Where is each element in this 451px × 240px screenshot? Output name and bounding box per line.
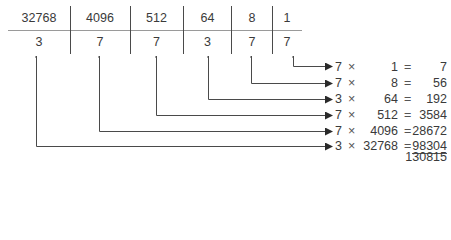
product-value: 7 <box>440 60 447 74</box>
product-value: 3584 <box>419 108 447 122</box>
place-value: 512 <box>377 108 398 122</box>
equals-sign: = <box>404 76 411 90</box>
times-sign: × <box>348 124 355 138</box>
product-row-4: 7 × 512 = 3584 <box>335 108 447 122</box>
equals-sign: = <box>404 92 411 106</box>
place-value: 1 <box>391 60 398 74</box>
times-sign: × <box>348 108 355 122</box>
times-sign: × <box>348 76 355 90</box>
sum-total: 130815 <box>405 150 447 164</box>
product-row-1: 7 × 1 = 7 <box>335 60 447 74</box>
place-value: 32768 <box>363 139 398 153</box>
times-sign: × <box>348 139 355 153</box>
digit: 7 <box>335 108 342 122</box>
digit: 3 <box>335 139 342 153</box>
equals-sign: = <box>404 60 411 74</box>
place-value: 4096 <box>370 124 398 138</box>
place-value: 64 <box>384 92 398 106</box>
digit: 7 <box>335 124 342 138</box>
digit: 7 <box>335 76 342 90</box>
digit: 7 <box>335 60 342 74</box>
digit: 3 <box>335 92 342 106</box>
product-row-3: 3 × 64 = 192 <box>335 92 447 106</box>
product-value: 28672 <box>412 124 447 138</box>
equals-sign: = <box>404 124 411 138</box>
product-value: 192 <box>426 92 447 106</box>
times-sign: × <box>348 60 355 74</box>
product-row-2: 7 × 8 = 56 <box>335 76 447 90</box>
product-value: 56 <box>433 76 447 90</box>
product-row-5: 7 × 4096 = 28672 <box>335 124 447 138</box>
equals-sign: = <box>404 108 411 122</box>
place-value: 8 <box>391 76 398 90</box>
times-sign: × <box>348 92 355 106</box>
